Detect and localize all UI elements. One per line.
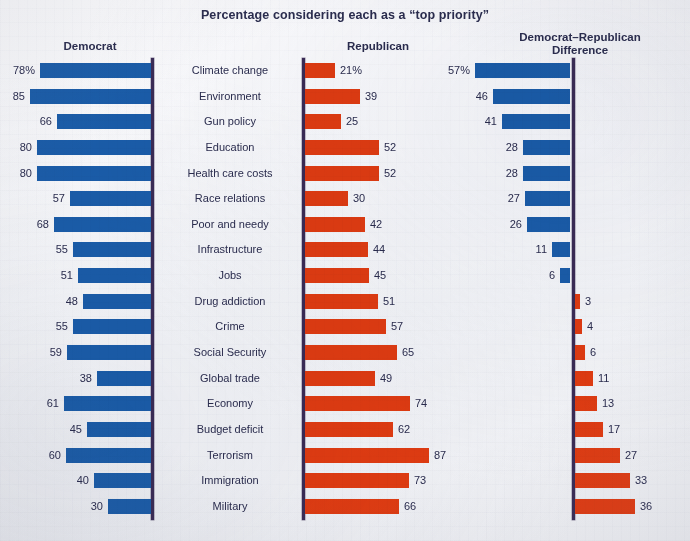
value-label-difference: 33 [635, 472, 647, 488]
value-label-republican: 44 [373, 241, 385, 257]
bar-democrat [97, 371, 151, 386]
chart-row: 38Global trade4911 [0, 366, 690, 392]
category-label: Crime [160, 318, 300, 334]
bar-democrat [57, 114, 151, 129]
category-label: Poor and needy [160, 216, 300, 232]
bar-democrat [73, 319, 151, 334]
value-label-difference: 3 [585, 293, 591, 309]
category-label: Drug addiction [160, 293, 300, 309]
value-label-democrat: 60 [49, 447, 61, 463]
value-label-republican: 49 [380, 370, 392, 386]
value-label-democrat: 61 [47, 395, 59, 411]
value-label-republican: 39 [365, 88, 377, 104]
bar-democrat [66, 448, 151, 463]
bar-democrat [108, 499, 151, 514]
bar-difference-democrat [560, 268, 570, 283]
chart-row: 40Immigration7333 [0, 468, 690, 494]
value-label-democrat: 55 [56, 241, 68, 257]
value-label-difference: 46 [476, 88, 488, 104]
value-label-republican: 21% [340, 62, 362, 78]
bar-democrat [30, 89, 151, 104]
bar-democrat [78, 268, 151, 283]
value-label-republican: 30 [353, 190, 365, 206]
bar-republican [305, 217, 365, 232]
bar-difference-republican [575, 319, 582, 334]
value-label-democrat: 66 [40, 113, 52, 129]
category-label: Gun policy [160, 113, 300, 129]
category-label: Health care costs [160, 165, 300, 181]
value-label-difference: 6 [590, 344, 596, 360]
chart-row: 85Environment3946 [0, 84, 690, 110]
chart-row: 55Crime574 [0, 314, 690, 340]
value-label-republican: 25 [346, 113, 358, 129]
chart-page: Percentage considering each as a “top pr… [0, 0, 690, 541]
category-label: Global trade [160, 370, 300, 386]
value-label-democrat: 78% [13, 62, 35, 78]
value-label-democrat: 80 [20, 165, 32, 181]
chart-row: 80Education5228 [0, 135, 690, 161]
chart-row: 30Military6636 [0, 494, 690, 520]
column-header-difference-line1: Democrat–Republican [500, 31, 660, 44]
bar-republican [305, 140, 379, 155]
value-label-difference: 26 [510, 216, 522, 232]
value-label-republican: 45 [374, 267, 386, 283]
bar-democrat [54, 217, 151, 232]
value-label-difference: 28 [506, 165, 518, 181]
value-label-democrat: 48 [66, 293, 78, 309]
bar-difference-republican [575, 473, 630, 488]
category-label: Military [160, 498, 300, 514]
bar-difference-democrat [523, 140, 570, 155]
bar-republican [305, 422, 393, 437]
bar-republican [305, 371, 375, 386]
value-label-difference: 27 [625, 447, 637, 463]
value-label-difference: 57% [448, 62, 470, 78]
column-header-difference-line2: Difference [500, 44, 660, 57]
value-label-republican: 52 [384, 165, 396, 181]
chart-row: 78%Climate change21%57% [0, 58, 690, 84]
category-label: Climate change [160, 62, 300, 78]
bar-difference-democrat [552, 242, 570, 257]
column-header-difference: Democrat–Republican Difference [500, 31, 660, 57]
chart-row: 48Drug addiction513 [0, 289, 690, 315]
value-label-republican: 42 [370, 216, 382, 232]
bar-democrat [70, 191, 151, 206]
bar-difference-democrat [527, 217, 570, 232]
bar-democrat [67, 345, 151, 360]
value-label-democrat: 45 [70, 421, 82, 437]
value-label-difference: 11 [598, 370, 609, 386]
bar-republican [305, 448, 429, 463]
value-label-difference: 6 [549, 267, 555, 283]
bar-republican [305, 242, 368, 257]
bar-difference-democrat [523, 166, 570, 181]
value-label-republican: 73 [414, 472, 426, 488]
chart-title: Percentage considering each as a “top pr… [0, 8, 690, 22]
value-label-republican: 66 [404, 498, 416, 514]
bar-difference-republican [575, 371, 593, 386]
category-label: Terrorism [160, 447, 300, 463]
chart-row: 51Jobs456 [0, 263, 690, 289]
value-label-difference: 36 [640, 498, 652, 514]
chart-row: 60Terrorism8727 [0, 443, 690, 469]
value-label-democrat: 57 [53, 190, 65, 206]
bar-republican [305, 294, 378, 309]
value-label-democrat: 40 [77, 472, 89, 488]
value-label-difference: 17 [608, 421, 620, 437]
category-label: Education [160, 139, 300, 155]
bar-difference-republican [575, 345, 585, 360]
value-label-difference: 28 [506, 139, 518, 155]
category-label: Social Security [160, 344, 300, 360]
bar-difference-democrat [475, 63, 570, 78]
value-label-democrat: 51 [61, 267, 73, 283]
category-label: Immigration [160, 472, 300, 488]
value-label-republican: 62 [398, 421, 410, 437]
bar-republican [305, 473, 409, 488]
value-label-republican: 65 [402, 344, 414, 360]
bar-difference-republican [575, 396, 597, 411]
chart-row: 59Social Security656 [0, 340, 690, 366]
bar-republican [305, 319, 386, 334]
value-label-difference: 11 [536, 241, 547, 257]
bar-democrat [64, 396, 151, 411]
value-label-democrat: 30 [91, 498, 103, 514]
value-label-republican: 51 [383, 293, 395, 309]
value-label-difference: 13 [602, 395, 614, 411]
